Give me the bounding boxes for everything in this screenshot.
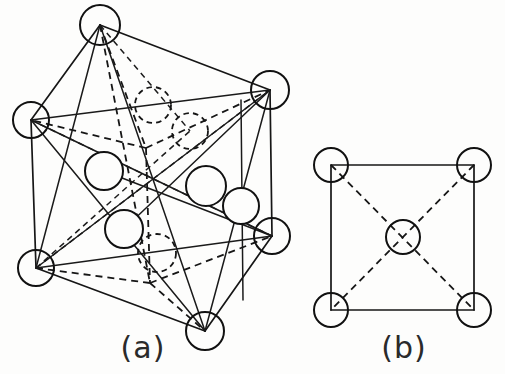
atom-face-mid-right — [186, 166, 226, 206]
atom-face-lower-left — [105, 210, 143, 248]
atom-face-mid-left — [85, 152, 123, 190]
solid-edge-left-bottomleft — [31, 120, 36, 268]
panel-a: (a) — [13, 5, 290, 365]
panel-b: (b) — [314, 148, 491, 365]
crystal-structure-figure: (a) (b) — [0, 0, 505, 374]
dashed-edge-bl-rearbranch — [36, 131, 190, 268]
solid-edge-ru-rl — [270, 90, 272, 236]
panel-a-label: (a) — [121, 330, 166, 365]
dashed-edge-rear-rightupper — [146, 90, 270, 148]
dashed-edge-rearlower-rl — [150, 236, 272, 283]
panel-b-label: (b) — [381, 330, 426, 365]
panel-b-diagonals — [331, 165, 474, 310]
solid-diag-left-ru — [31, 90, 270, 120]
figure-root: (a) (b) — [0, 0, 505, 374]
solid-edge-top-rightupper — [100, 25, 270, 90]
panel-a-interior-atoms — [85, 87, 259, 272]
atom-face-right-edge — [223, 188, 259, 224]
solid-diag-top-bl — [36, 25, 100, 268]
